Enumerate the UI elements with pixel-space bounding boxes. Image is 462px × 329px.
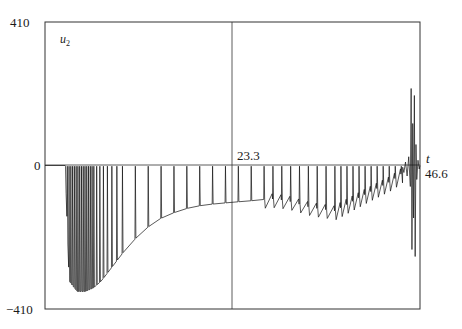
x-axis-label: t [426, 152, 430, 165]
y-axis-label: u2 [60, 33, 70, 48]
plot-frame [45, 22, 420, 309]
y-tick-bottom: −410 [6, 303, 33, 316]
chart-plot [0, 0, 462, 329]
y-tick-zero: 0 [34, 159, 41, 172]
signal-path [45, 89, 420, 292]
signal-series [45, 89, 420, 292]
y-tick-top: 410 [10, 16, 30, 29]
x-tick-end: 46.6 [425, 167, 448, 180]
x-tick-mid: 23.3 [237, 149, 260, 162]
